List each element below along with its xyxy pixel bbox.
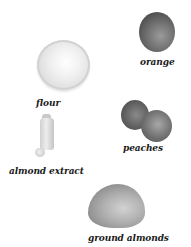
ground-almonds-label: ground almonds <box>88 233 169 243</box>
flour-label: flour <box>36 98 60 108</box>
orange-label: orange <box>140 57 175 67</box>
ground-almonds-image <box>88 184 145 228</box>
almond-extract-bottle-image <box>40 118 54 150</box>
almond-extract-label: almond extract <box>9 166 84 176</box>
peaches-label: peaches <box>123 143 163 153</box>
almond-extract-cap-image <box>35 148 45 157</box>
peach-image-2 <box>141 110 172 142</box>
flour-image <box>37 40 90 90</box>
orange-image <box>139 12 175 52</box>
